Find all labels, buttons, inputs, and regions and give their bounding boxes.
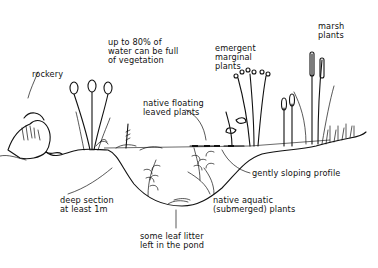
floating-plants-label: native floating leaved plants bbox=[143, 99, 204, 117]
iris-plants bbox=[70, 80, 112, 150]
rockery-drawing bbox=[8, 113, 62, 159]
vegetation-label: up to 80% of water can be full of vegeta… bbox=[108, 38, 178, 65]
sloping-profile-label: gently sloping profile bbox=[252, 169, 340, 178]
submerged-plants bbox=[144, 148, 214, 204]
deep-section-label: deep section at least 1m bbox=[60, 196, 114, 214]
aquatic-plants-label: native aquatic (submerged) plants bbox=[213, 196, 295, 214]
left-marginal bbox=[116, 124, 162, 150]
pond-illustration bbox=[0, 0, 378, 268]
emergent-plants-label: emergent marginal plants bbox=[215, 44, 256, 71]
marsh-plants-label: marsh plants bbox=[318, 22, 344, 40]
rockery-label: rockery bbox=[32, 70, 63, 79]
pond-cross-section-diagram: up to 80% of water can be full of vegeta… bbox=[0, 0, 378, 268]
emergent-cluster bbox=[226, 68, 270, 146]
marsh-plants bbox=[282, 52, 355, 146]
leaf-litter-label: some leaf litter left in the pond bbox=[140, 232, 204, 250]
